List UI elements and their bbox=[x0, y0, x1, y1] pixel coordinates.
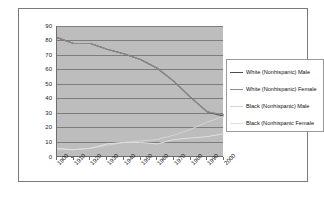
legend-item-label: Black (Nonhispanic Female bbox=[246, 120, 314, 127]
y-axis-tick-label: 70 bbox=[45, 52, 52, 59]
y-axis-tick-label: 20 bbox=[45, 124, 52, 131]
legend-line-swatch bbox=[230, 72, 243, 73]
y-axis: 0102030405060708090 bbox=[37, 21, 54, 162]
x-axis-tick-mark bbox=[106, 157, 107, 160]
series-line bbox=[57, 38, 224, 115]
legend-item[interactable]: White (Nonhispanic) Male bbox=[230, 66, 323, 78]
y-axis-tick-label: 50 bbox=[45, 81, 52, 88]
legend-item[interactable]: Black (Nonhispanic Female bbox=[230, 117, 323, 129]
x-axis-tick-mark bbox=[173, 157, 174, 160]
x-axis-tick-mark bbox=[123, 157, 124, 160]
legend-item[interactable]: Black (Nonhispanic) Male bbox=[230, 100, 323, 112]
chart-frame: 0102030405060708090 19001910192019301940… bbox=[18, 8, 308, 182]
x-axis-tick-mark bbox=[56, 157, 57, 160]
x-axis: 1900191019201930194019501960197019801990… bbox=[49, 159, 234, 191]
x-axis-tick-mark bbox=[89, 157, 90, 160]
y-axis-tick-label: 90 bbox=[45, 23, 52, 30]
x-axis-tick-mark bbox=[206, 157, 207, 160]
legend-line-swatch bbox=[230, 123, 243, 124]
plot-area bbox=[56, 26, 223, 157]
y-axis-tick-label: 30 bbox=[45, 110, 52, 117]
x-axis-tick-mark bbox=[156, 157, 157, 160]
y-axis-tick-label: 80 bbox=[45, 37, 52, 44]
legend-item[interactable]: White (Nonhispanic) Female bbox=[230, 83, 323, 95]
legend-item-label: Black (Nonhispanic) Male bbox=[246, 103, 309, 110]
y-axis-tick-label: 10 bbox=[45, 139, 52, 146]
x-axis-tick-label: 2000 bbox=[223, 153, 237, 167]
series-lines bbox=[57, 26, 224, 157]
chart-legend: White (Nonhispanic) MaleWhite (Nonhispan… bbox=[226, 59, 324, 132]
legend-item-label: White (Nonhispanic) Male bbox=[246, 69, 310, 76]
legend-line-swatch bbox=[230, 89, 243, 90]
series-line bbox=[57, 134, 224, 150]
y-axis-tick-label: 40 bbox=[45, 95, 52, 102]
x-axis-tick-mark bbox=[140, 157, 141, 160]
x-axis-tick-mark bbox=[73, 157, 74, 160]
legend-item-label: White (Nonhispanic) Female bbox=[246, 86, 317, 93]
legend-line-swatch bbox=[230, 106, 243, 107]
x-axis-tick-mark bbox=[223, 157, 224, 160]
x-axis-tick-mark bbox=[190, 157, 191, 160]
y-axis-tick-label: 60 bbox=[45, 66, 52, 73]
series-line bbox=[57, 116, 224, 149]
